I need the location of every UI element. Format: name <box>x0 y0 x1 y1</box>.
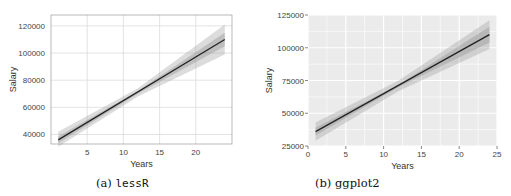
y-axis: 400006000080000100000120000 <box>18 22 45 140</box>
x-axis-title: Years <box>391 161 414 171</box>
x-tick-label: 5 <box>85 148 90 157</box>
y-tick-label: 125000 <box>277 11 304 20</box>
caption-label: (b) <box>315 176 331 190</box>
x-tick-label: 15 <box>417 150 426 159</box>
x-tick-label: 15 <box>155 148 164 157</box>
x-axis-title: Years <box>130 159 153 169</box>
x-tick-label: 10 <box>119 148 128 157</box>
chart-panel-ggplot2: 2500050000750001000001250000510152025Yea… <box>255 0 511 196</box>
ggplot2-chart: 2500050000750001000001250000510152025Yea… <box>255 0 511 196</box>
caption-lessr: (a) lessR <box>96 176 149 190</box>
x-tick-label: 20 <box>455 150 464 159</box>
x-tick-label: 10 <box>379 150 388 159</box>
y-tick-label: 100000 <box>277 44 304 53</box>
y-tick-label: 100000 <box>18 49 45 58</box>
y-tick-label: 60000 <box>23 103 46 112</box>
x-tick-label: 25 <box>493 150 502 159</box>
y-axis: 250005000075000100000125000 <box>277 11 308 151</box>
caption-ggplot2: (b) ggplot2 <box>315 176 380 190</box>
x-tick-label: 0 <box>306 150 311 159</box>
x-axis: 0510152025 <box>306 146 502 159</box>
y-tick-label: 75000 <box>282 77 305 86</box>
y-tick-label: 25000 <box>282 142 305 151</box>
x-tick-label: 5 <box>344 150 349 159</box>
y-tick-label: 120000 <box>18 22 45 31</box>
y-tick-label: 40000 <box>23 130 46 139</box>
y-tick-label: 80000 <box>23 76 46 85</box>
x-axis: 5101520 <box>85 148 201 157</box>
caption-name: ggplot2 <box>335 176 380 190</box>
y-axis-title: Salary <box>264 67 274 93</box>
x-tick-label: 20 <box>191 148 200 157</box>
lessr-chart: 4000060000800001000001200005101520YearsS… <box>0 0 255 196</box>
y-tick-label: 50000 <box>282 109 305 118</box>
caption-name: lessR <box>116 177 149 190</box>
chart-panel-lessr: 4000060000800001000001200005101520YearsS… <box>0 0 255 196</box>
y-axis-title: Salary <box>8 66 18 92</box>
caption-label: (a) <box>96 176 112 190</box>
